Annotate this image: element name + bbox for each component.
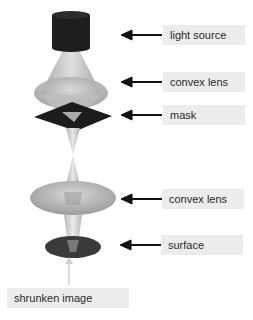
label-shrunken-image: shrunken image — [7, 288, 129, 308]
beam-focus-lower — [66, 155, 80, 185]
optics-illustration — [0, 0, 253, 320]
light-source-cylinder — [52, 11, 90, 52]
label-mask: mask — [163, 105, 245, 125]
label-convex-lens-top: convex lens — [163, 72, 245, 92]
arrows — [120, 30, 162, 250]
beam-focus-upper — [66, 128, 80, 155]
lithography-diagram: light source convex lens mask convex len… — [0, 0, 253, 320]
label-surface: surface — [161, 235, 243, 255]
label-light-source: light source — [163, 25, 245, 45]
label-convex-lens-bottom: convex lens — [162, 189, 244, 209]
